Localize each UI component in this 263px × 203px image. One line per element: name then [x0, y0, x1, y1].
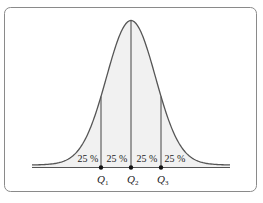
q3-point	[159, 165, 163, 169]
segment-label-1: 25 %	[78, 153, 99, 164]
segment-label-3: 25 %	[137, 153, 158, 164]
segment-label-2: 25 %	[107, 153, 128, 164]
q1-point	[99, 165, 103, 169]
normal-distribution-diagram: 25 % 25 % 25 % 25 % Q1 Q2 Q3	[0, 0, 263, 203]
q2-point	[129, 165, 133, 169]
segment-label-4: 25 %	[165, 153, 186, 164]
